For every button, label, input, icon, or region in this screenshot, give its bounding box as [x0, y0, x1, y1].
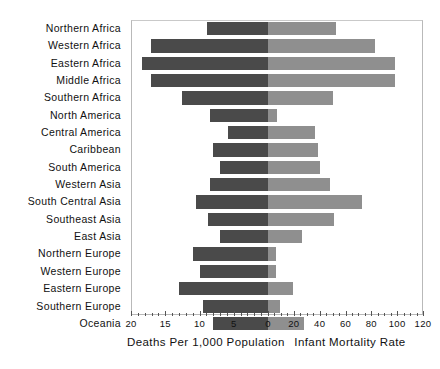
bar-deaths-per-1000: [142, 57, 268, 70]
axis-tick-major: [423, 311, 424, 316]
bar-infant-mortality-rate: [268, 195, 362, 208]
bar-deaths-per-1000: [182, 91, 268, 104]
axis-tick-minor: [352, 313, 353, 316]
bar-deaths-per-1000: [210, 178, 268, 191]
bar-infant-mortality-rate: [268, 91, 333, 104]
table-row: [131, 211, 423, 228]
axis-tick-minor: [213, 313, 214, 316]
category-label: Middle Africa: [0, 72, 126, 89]
axis-captions: Deaths Per 1,000 Population Infant Morta…: [0, 336, 440, 356]
bar-infant-mortality-rate: [268, 39, 375, 52]
axis-tick-major: [165, 311, 166, 316]
bar-deaths-per-1000: [220, 161, 268, 174]
bar-infant-mortality-rate: [268, 265, 276, 278]
category-label: Western Europe: [0, 263, 126, 280]
axis-tick-minor: [378, 313, 379, 316]
bar-deaths-per-1000: [207, 22, 268, 35]
bar-deaths-per-1000: [210, 109, 268, 122]
axis-tick-label: 0: [265, 318, 271, 329]
axis-tick-minor: [241, 313, 242, 316]
axis-tick-minor: [339, 313, 340, 316]
bar-infant-mortality-rate: [268, 213, 334, 226]
bar-deaths-per-1000: [193, 247, 268, 260]
axis-tick-minor: [307, 313, 308, 316]
axis-tick-major: [371, 311, 372, 316]
axis-tick-minor: [326, 313, 327, 316]
category-label: Southern Africa: [0, 89, 126, 106]
axis-tick-major: [346, 311, 347, 316]
axis-tick-major: [320, 311, 321, 316]
axis-label-left: Deaths Per 1,000 Population: [127, 336, 285, 348]
value-axis-tick-labels: 2015105020406080100120: [0, 318, 440, 332]
axis-tick-minor: [384, 313, 385, 316]
axis-tick-label: 80: [366, 318, 377, 329]
category-label: South America: [0, 159, 126, 176]
bar-infant-mortality-rate: [268, 57, 395, 70]
category-label: Western Africa: [0, 37, 126, 54]
table-row: [131, 107, 423, 124]
bar-deaths-per-1000: [179, 282, 268, 295]
bar-deaths-per-1000: [151, 39, 268, 52]
bar-infant-mortality-rate: [268, 126, 315, 139]
category-label: South Central Asia: [0, 193, 126, 210]
table-row: [131, 141, 423, 158]
axis-tick-major: [268, 311, 269, 316]
axis-tick-major: [294, 311, 295, 316]
table-row: [131, 55, 423, 72]
table-row: [131, 72, 423, 89]
axis-tick-minor: [410, 313, 411, 316]
axis-tick-minor: [220, 313, 221, 316]
bar-infant-mortality-rate: [268, 282, 293, 295]
bar-deaths-per-1000: [203, 300, 268, 313]
axis-tick-minor: [227, 313, 228, 316]
bar-infant-mortality-rate: [268, 143, 318, 156]
category-label: Southeast Asia: [0, 211, 126, 228]
table-row: [131, 193, 423, 210]
table-row: [131, 37, 423, 54]
axis-tick-minor: [145, 313, 146, 316]
table-row: [131, 228, 423, 245]
axis-tick-major: [131, 311, 132, 316]
axis-tick-minor: [186, 313, 187, 316]
chart-container: Northern AfricaWestern AfricaEastern Afr…: [0, 0, 440, 369]
category-label: Northern Africa: [0, 20, 126, 37]
axis-tick-minor: [179, 313, 180, 316]
axis-label-right: Infant Mortality Rate: [294, 336, 405, 348]
category-label: Northern Europe: [0, 245, 126, 262]
category-label: Western Asia: [0, 176, 126, 193]
table-row: [131, 159, 423, 176]
axis-tick-minor: [300, 313, 301, 316]
bar-rows: [131, 20, 423, 315]
axis-tick-major: [200, 311, 201, 316]
bar-deaths-per-1000: [196, 195, 268, 208]
axis-tick-minor: [313, 313, 314, 316]
category-label: Eastern Europe: [0, 280, 126, 297]
bar-infant-mortality-rate: [268, 230, 302, 243]
category-label: North America: [0, 107, 126, 124]
axis-tick-label: 100: [389, 318, 406, 329]
plot-area: [131, 20, 423, 315]
axis-tick-minor: [247, 313, 248, 316]
axis-tick-label: 20: [125, 318, 136, 329]
table-row: [131, 280, 423, 297]
axis-tick-minor: [172, 313, 173, 316]
category-label: East Asia: [0, 228, 126, 245]
axis-tick-label: 20: [288, 318, 299, 329]
bar-deaths-per-1000: [151, 74, 268, 87]
table-row: [131, 124, 423, 141]
bar-infant-mortality-rate: [268, 74, 395, 87]
axis-tick-label: 60: [340, 318, 351, 329]
axis-tick-label: 5: [231, 318, 237, 329]
axis-tick-minor: [404, 313, 405, 316]
bar-infant-mortality-rate: [268, 161, 320, 174]
axis-tick-minor: [261, 313, 262, 316]
axis-tick-label: 120: [415, 318, 432, 329]
axis-tick-minor: [365, 313, 366, 316]
axis-tick-major: [234, 311, 235, 316]
category-label: Caribbean: [0, 141, 126, 158]
axis-tick-minor: [274, 313, 275, 316]
category-axis-labels: Northern AfricaWestern AfricaEastern Afr…: [0, 20, 126, 332]
bar-infant-mortality-rate: [268, 178, 330, 191]
bar-infant-mortality-rate: [268, 109, 277, 122]
axis-tick-minor: [287, 313, 288, 316]
